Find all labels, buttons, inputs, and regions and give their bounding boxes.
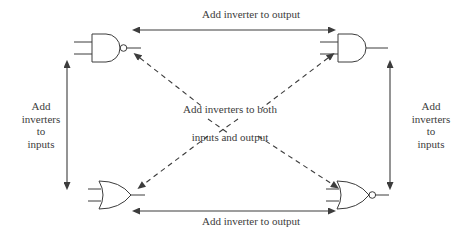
arrow-diagonal-ne-sw [262,58,328,108]
label-add-inverters-to-inputs-right: Addinverterstoinputs [402,100,459,150]
gate-nand [74,34,141,62]
label-add-inverters-to-both: Add inverters to both [155,103,305,116]
label-add-inverter-to-output-bottom: Add inverter to output [176,215,326,228]
label-add-inverter-to-output-top: Add inverter to output [176,8,326,21]
diagram-canvas: Add inverter to output Add inverter to o… [0,0,459,244]
gate-or [88,181,145,209]
gate-nor [326,181,389,209]
gate-and [320,34,388,62]
label-add-inverters-to-inputs-left: Addinverterstoinputs [12,100,70,150]
label-inputs-and-output: inputs and output [155,131,305,144]
arrow-diagonal-nw-se [140,58,204,108]
